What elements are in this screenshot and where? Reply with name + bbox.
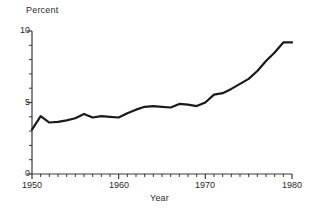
x-axis-ticks xyxy=(32,174,292,179)
axis-lines xyxy=(32,31,292,174)
y-axis-ticks xyxy=(27,31,32,174)
chart-canvas xyxy=(0,0,311,212)
line-chart: Percent Year 10 5 0 1950 1960 1970 1980 xyxy=(0,0,311,212)
data-line-series xyxy=(32,42,292,129)
